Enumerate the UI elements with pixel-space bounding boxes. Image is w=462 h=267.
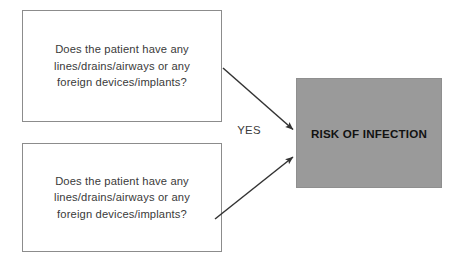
question-box-top[interactable]: Does the patient have any lines/drains/a… bbox=[22, 10, 222, 122]
risk-of-infection-box[interactable]: RISK OF INFECTION bbox=[296, 78, 442, 188]
question-box-bottom[interactable]: Does the patient have any lines/drains/a… bbox=[22, 143, 222, 252]
question-box-top-text: Does the patient have any lines/drains/a… bbox=[46, 41, 198, 91]
question-box-bottom-text: Does the patient have any lines/drains/a… bbox=[46, 173, 198, 223]
arrow-bottom-to-risk bbox=[215, 157, 293, 219]
diagram-canvas: Does the patient have any lines/drains/a… bbox=[0, 0, 462, 267]
arrow-top-to-risk bbox=[223, 68, 293, 130]
edge-label-yes: YES bbox=[228, 124, 270, 136]
risk-of-infection-label: RISK OF INFECTION bbox=[311, 127, 427, 140]
